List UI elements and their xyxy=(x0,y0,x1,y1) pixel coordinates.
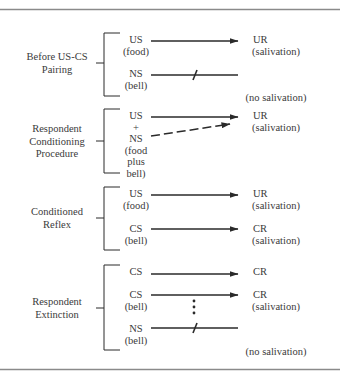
section-label: Conditioned xyxy=(31,206,84,217)
section-label: Reflex xyxy=(43,219,72,230)
stimulus-description: (bell) xyxy=(125,335,148,347)
stimulus-label: NS xyxy=(129,68,143,79)
stimulus-label: CS xyxy=(130,289,143,300)
response-description: (salivation) xyxy=(252,122,300,134)
section-conditioned-reflex: ConditionedReflexUS(food)UR(salivation)C… xyxy=(31,187,300,250)
section-label: Extinction xyxy=(35,309,79,320)
stimulus-label: NS xyxy=(129,323,143,334)
bracket xyxy=(96,187,120,250)
response-label: UR xyxy=(253,110,268,121)
section-label: Procedure xyxy=(36,148,79,159)
section-before-pairing: Before US-CSPairingUS(food)UR(salivation… xyxy=(27,33,307,104)
response-label: CR xyxy=(253,266,267,277)
stimulus-description: bell) xyxy=(126,168,146,180)
stimulus-description: (food) xyxy=(123,46,150,58)
ellipsis-dot xyxy=(193,306,196,309)
relation-row: NS(bell)(no salivation) xyxy=(125,323,307,358)
response-label: CR xyxy=(253,223,267,234)
section-label: Conditioning xyxy=(29,136,85,147)
stimulus-label: US xyxy=(129,110,143,121)
stimulus-description: NS xyxy=(129,133,143,144)
stimulus-description: (bell) xyxy=(125,235,148,247)
ellipsis-dot xyxy=(193,300,196,303)
relation-row: NS(bell)(no salivation) xyxy=(125,68,307,104)
relation-row: US(food)UR(salivation) xyxy=(123,34,301,58)
stimulus-label: US xyxy=(129,34,143,45)
stimulus-label: CS xyxy=(130,266,143,277)
stimulus-description: (bell) xyxy=(125,80,148,92)
relation-row: US(food)UR(salivation) xyxy=(123,188,301,212)
section-label: Respondent xyxy=(32,123,82,134)
response-label: UR xyxy=(253,188,268,199)
stimulus-label: US xyxy=(129,188,143,199)
bracket xyxy=(96,33,120,96)
response-label: CR xyxy=(253,289,267,300)
section-label: Respondent xyxy=(32,296,82,307)
section-respondent-extinction: RespondentExtinctionCSCRCS(bell)CR(saliv… xyxy=(32,265,307,358)
section-label: Pairing xyxy=(42,64,73,75)
response-description: (no salivation) xyxy=(246,346,307,358)
response-description: (salivation) xyxy=(252,235,300,247)
stimulus-description: plus xyxy=(127,156,145,167)
relation-row: US+NS(foodplusbell)UR(salivation) xyxy=(125,110,301,180)
dashed-arrow-icon xyxy=(151,124,230,136)
response-description: (salivation) xyxy=(252,200,300,212)
stimulus-description: (food) xyxy=(123,200,150,212)
stimulus-description: + xyxy=(133,122,139,133)
stimulus-description: (food xyxy=(125,145,148,157)
relation-row xyxy=(151,124,230,136)
response-description: (salivation) xyxy=(252,301,300,313)
ellipsis-dot xyxy=(193,312,196,315)
respondent-conditioning-diagram: Before US-CSPairingUS(food)UR(salivation… xyxy=(0,0,343,384)
bracket xyxy=(96,109,120,173)
relation-row: CS(bell)CR(salivation) xyxy=(125,223,301,247)
response-description: (no salivation) xyxy=(246,92,307,104)
stimulus-label: CS xyxy=(130,223,143,234)
stimulus-description: (bell) xyxy=(125,301,148,313)
response-description: (salivation) xyxy=(252,46,300,58)
bracket xyxy=(96,265,120,350)
relation-row: CS(bell)CR(salivation) xyxy=(125,289,301,313)
response-label: UR xyxy=(253,34,268,45)
section-label: Before US-CS xyxy=(27,51,88,62)
section-conditioning-procedure: RespondentConditioningProcedureUS+NS(foo… xyxy=(29,109,300,180)
relation-row: CSCR xyxy=(130,266,267,277)
